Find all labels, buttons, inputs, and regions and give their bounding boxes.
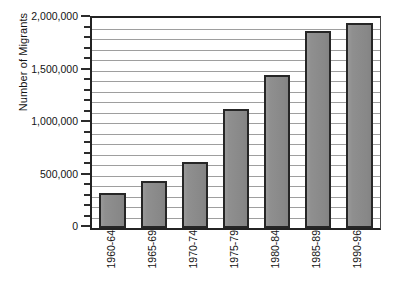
y-axis-major-tick <box>81 225 90 227</box>
y-axis-tick-label: 2,000,000 <box>16 11 78 21</box>
x-axis-tick-label: 1970-74 <box>187 230 198 269</box>
y-axis-tick-label: 500,000 <box>16 169 78 179</box>
x-axis-tick: 1985-89 <box>296 228 337 284</box>
x-axis-tick: 1970-74 <box>172 228 213 284</box>
bar <box>264 75 290 228</box>
y-axis-major-tick <box>81 15 90 17</box>
bar <box>99 193 125 228</box>
bar <box>141 181 167 228</box>
x-axis-tick: 1960-64 <box>90 228 131 284</box>
x-axis-tick-label: 1990-96 <box>352 230 363 269</box>
gridline <box>92 29 380 30</box>
bar <box>305 31 331 228</box>
y-axis-tick-marks <box>78 0 90 284</box>
y-axis-major-tick <box>81 68 90 70</box>
x-axis-tick-labels: 1960-641965-691970-741975-791980-841985-… <box>90 228 378 284</box>
plot-area <box>90 16 381 230</box>
y-axis-tick-labels: 0500,0001,000,0001,500,0002,000,000 <box>12 0 78 284</box>
bar <box>223 109 249 228</box>
x-axis-tick-label: 1965-69 <box>146 230 157 269</box>
x-axis-tick-label: 1980-84 <box>270 230 281 269</box>
gridline <box>92 92 380 93</box>
x-axis-tick: 1980-84 <box>255 228 296 284</box>
x-axis-tick-label: 1960-64 <box>105 230 116 269</box>
bar <box>346 23 372 228</box>
y-axis-tick-label: 1,000,000 <box>16 116 78 126</box>
gridline <box>92 50 380 51</box>
bar-chart: Number of Migrants 0500,0001,000,0001,50… <box>0 0 397 284</box>
x-axis-tick: 1990-96 <box>337 228 378 284</box>
gridline <box>92 102 380 103</box>
y-axis-major-tick <box>81 120 90 122</box>
y-axis-tick-label: 1,500,000 <box>16 64 78 74</box>
gridline <box>92 60 380 61</box>
x-axis-tick-label: 1975-79 <box>228 230 239 269</box>
plot-inner <box>92 18 380 228</box>
x-axis-tick: 1975-79 <box>213 228 254 284</box>
x-axis-tick: 1965-69 <box>131 228 172 284</box>
gridline <box>92 39 380 40</box>
gridline <box>92 71 380 72</box>
x-axis-tick-label: 1985-89 <box>311 230 322 269</box>
gridline <box>92 81 380 82</box>
y-axis-major-tick <box>81 173 90 175</box>
bar <box>182 162 208 228</box>
y-axis-tick-label: 0 <box>16 221 78 231</box>
